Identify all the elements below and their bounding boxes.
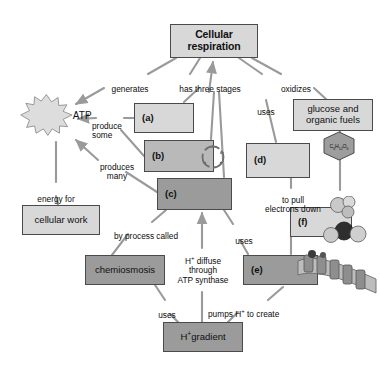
edge-label-has-three-stages: has three stages <box>170 75 250 94</box>
starburst-shape <box>20 86 73 144</box>
edge-label-uses-mid-text: uses <box>235 236 253 246</box>
edge-label-by-process-called: by process called <box>98 222 194 241</box>
node-cellular-work[interactable]: cellular work <box>22 205 100 235</box>
node-h-gradient-label: H+gradient <box>180 332 225 343</box>
edge-label-uses-mid: uses <box>227 227 261 246</box>
node-cellular-respiration-label: Cellular respiration <box>187 29 240 53</box>
node-atp[interactable]: ATP <box>20 86 92 144</box>
edge-label-uses-bottom-text: uses <box>158 310 176 320</box>
node-c-label: (c) <box>165 189 177 200</box>
node-cellular-respiration[interactable]: Cellular respiration <box>170 24 258 58</box>
edge-label-generates: generates <box>100 75 160 94</box>
node-c[interactable]: (c) <box>157 178 232 210</box>
edge-chemiosmosis-uses <box>155 285 165 300</box>
electron-transport-chain-membrane-icon <box>296 249 378 301</box>
node-d-label: (d) <box>254 155 266 166</box>
edge-label-pumps-h-to-create-text: pumps H+ to create <box>208 309 279 319</box>
edge-label-energy-for-text: energy for <box>37 194 74 204</box>
glucose-chemical-formula: C6H12O6 <box>330 143 349 149</box>
node-glucose-and-organic-fuels[interactable]: glucose and organic fuels <box>293 99 373 131</box>
edge-cr-to-a <box>190 58 200 74</box>
edge-label-produces-many-text: produces many <box>100 162 134 182</box>
edge-cr-oxidizes <box>252 58 281 74</box>
node-f-label: (f) <box>298 217 308 228</box>
edge-cr-generates <box>148 58 176 74</box>
edge-label-by-process-called-text: by process called <box>114 231 178 241</box>
citric-acid-cycle-icon <box>198 142 228 172</box>
edge-stages-to-b <box>211 92 214 139</box>
edge-label-generates-text: generates <box>112 84 149 94</box>
node-atp-label: ATP <box>73 110 92 121</box>
glucose-formula-hexagon: C6H12O6 <box>322 131 356 161</box>
edge-label-produce-some: produce some <box>92 112 130 141</box>
edge-label-to-pull-electrons-down-text: to pull electrons down <box>265 195 321 215</box>
node-glucose-label: glucose and organic fuels <box>306 104 360 125</box>
node-a[interactable]: (a) <box>134 103 194 133</box>
node-chemiosmosis-label: chemiosmosis <box>95 265 155 276</box>
edge-label-pumps-h-to-create: pumps H+ to create <box>208 300 304 319</box>
node-chemiosmosis[interactable]: chemiosmosis <box>85 255 165 285</box>
edge-pumps-to-e <box>268 287 283 300</box>
edge-c-to-process <box>152 210 166 222</box>
node-a-label: (a) <box>142 113 154 124</box>
edge-label-oxidizes-text: oxidizes <box>281 84 311 94</box>
edge-label-has-three-stages-text: has three stages <box>179 84 240 94</box>
edge-label-oxidizes: oxidizes <box>272 75 320 94</box>
edge-label-h-diffuse-text: H+ diffusethroughATP synthase <box>178 256 229 285</box>
edge-label-produces-many: produces many <box>93 153 141 182</box>
edge-label-to-pull-electrons-down: to pull electrons down <box>258 186 328 215</box>
node-e-label: (e) <box>251 265 263 276</box>
edge-c-uses-e <box>224 210 233 224</box>
edge-label-h-diffuse-atp-synthase: H+ diffusethroughATP synthase <box>166 247 240 285</box>
node-b-label: (b) <box>152 151 164 162</box>
edge-label-uses-top: uses <box>248 98 284 117</box>
edge-label-energy-for: energy for <box>26 185 86 204</box>
edge-label-uses-top-text: uses <box>257 107 275 117</box>
concept-map-diagram: Cellular respiration ATP (a) (b) (c) (d)… <box>0 0 380 369</box>
water-and-co2-molecule-icon <box>320 196 378 244</box>
node-h-gradient[interactable]: H+gradient <box>163 322 243 352</box>
edge-label-uses-bottom: uses <box>150 301 184 320</box>
edge-cr-uses <box>239 58 262 74</box>
node-d[interactable]: (d) <box>246 143 310 178</box>
edge-label-produce-some-text: produce some <box>92 121 122 141</box>
node-cellular-work-label: cellular work <box>35 215 88 226</box>
